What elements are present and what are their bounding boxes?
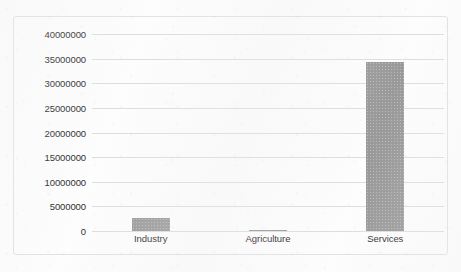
y-axis-tick-label: 0 [81, 226, 86, 237]
bar-series [92, 34, 444, 231]
y-axis-tick-label: 25000000 [45, 103, 86, 114]
y-axis-tick-label: 10000000 [45, 177, 86, 188]
y-axis-tick-label: 40000000 [45, 29, 86, 40]
bar[interactable] [366, 62, 404, 231]
bar-slot [327, 34, 444, 231]
bar-slot [209, 34, 326, 231]
y-axis-tick-label: 35000000 [45, 54, 86, 65]
gridline [92, 231, 444, 232]
x-axis-category-label: Services [327, 233, 444, 244]
x-axis-category-label: Agriculture [209, 233, 326, 244]
x-axis-category-label: Industry [92, 233, 209, 244]
chart-frame: 4000000035000000300000002500000020000000… [13, 16, 448, 255]
bar-slot [92, 34, 209, 231]
bar[interactable] [132, 218, 170, 231]
y-axis-tick-label: 20000000 [45, 128, 86, 139]
x-axis-labels: IndustryAgricultureServices [92, 233, 444, 244]
bar[interactable] [249, 230, 287, 231]
y-axis-tick-label: 5000000 [50, 201, 86, 212]
y-axis-tick-label: 30000000 [45, 78, 86, 89]
y-axis-tick-label: 15000000 [45, 152, 86, 163]
plot-area: 4000000035000000300000002500000020000000… [92, 34, 444, 231]
